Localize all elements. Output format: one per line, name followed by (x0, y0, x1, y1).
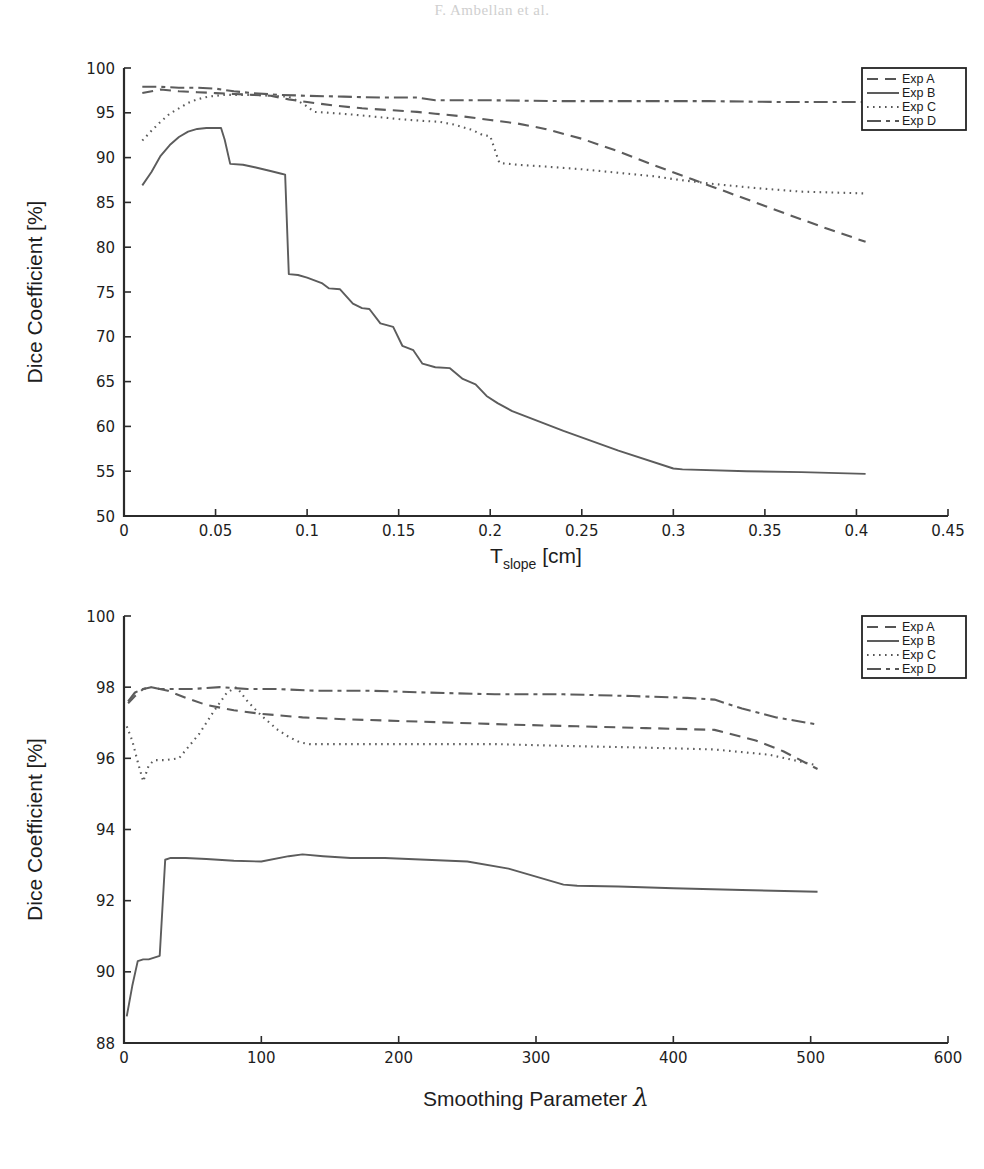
y-tick-label: 95 (96, 104, 115, 122)
legend-label-exp-a: Exp A (902, 620, 935, 634)
y-tick-label: 92 (96, 892, 115, 910)
x-tick-label: 0.15 (382, 522, 415, 540)
chart-dice-vs-tslope: 5055606570758085909510000.050.10.150.20.… (0, 18, 984, 593)
y-tick-label: 65 (96, 373, 115, 391)
y-tick-label: 85 (96, 194, 115, 212)
legend-label-exp-d: Exp D (902, 114, 936, 128)
series-group (127, 687, 818, 1016)
x-tick-label: 0.35 (748, 522, 781, 540)
page-running-header: F. Ambellan et al. (0, 2, 984, 19)
x-axis-title: Tslope [cm] (490, 544, 582, 572)
y-tick-label: 55 (96, 463, 115, 481)
x-tick-label: 200 (384, 1049, 413, 1067)
series-line-exp-c (142, 95, 865, 194)
y-tick-label: 98 (96, 679, 115, 697)
y-tick-label: 80 (96, 239, 115, 257)
x-tick-label: 0.05 (199, 522, 232, 540)
x-axis-title: Smoothing Parameter λ (423, 1083, 649, 1112)
legend-label-exp-b: Exp B (902, 634, 935, 648)
x-tick-label: 0.4 (845, 522, 869, 540)
x-tick-label: 600 (934, 1049, 963, 1067)
x-tick-label: 0.45 (931, 522, 964, 540)
series-line-exp-c (127, 687, 818, 781)
x-tick-label: 0 (119, 522, 129, 540)
x-tick-label: 0.3 (661, 522, 685, 540)
chart-dice-vs-smoothing: 8890929496981000100200300400500600Dice C… (0, 593, 984, 1169)
y-tick-label: 75 (96, 284, 115, 302)
y-tick-label: 70 (96, 328, 115, 346)
legend: Exp AExp BExp CExp D (862, 68, 966, 130)
x-tick-label: 0 (119, 1049, 129, 1067)
series-line-exp-b (142, 128, 865, 474)
y-tick-label: 90 (96, 963, 115, 981)
figure-page: F. Ambellan et al. 505560657075808590951… (0, 0, 984, 1169)
x-tick-label: 400 (659, 1049, 688, 1067)
y-tick-label: 60 (96, 418, 115, 436)
x-tick-label: 0.25 (565, 522, 598, 540)
legend-label-exp-b: Exp B (902, 86, 935, 100)
y-axis-title: Dice Coefficient [%] (23, 738, 46, 921)
axis-spines (124, 68, 948, 516)
x-tick-label: 300 (522, 1049, 551, 1067)
y-tick-label: 94 (96, 821, 115, 839)
y-tick-label: 100 (86, 60, 115, 78)
x-tick-label: 0.2 (478, 522, 502, 540)
y-tick-label: 88 (96, 1035, 115, 1053)
y-axis-title: Dice Coefficient [%] (23, 201, 46, 384)
y-tick-label: 90 (96, 149, 115, 167)
y-tick-label: 96 (96, 750, 115, 768)
legend-label-exp-d: Exp D (902, 662, 936, 676)
y-tick-label: 50 (96, 508, 115, 526)
series-line-exp-b (127, 854, 818, 1016)
x-tick-label: 0.1 (295, 522, 319, 540)
series-line-exp-d (128, 687, 817, 724)
legend: Exp AExp BExp CExp D (862, 616, 966, 678)
axis-spines (124, 616, 948, 1043)
legend-label-exp-c: Exp C (902, 648, 936, 662)
legend-label-exp-a: Exp A (902, 72, 935, 86)
y-tick-label: 100 (86, 608, 115, 626)
x-tick-label: 100 (247, 1049, 276, 1067)
x-tick-label: 500 (796, 1049, 825, 1067)
series-group (142, 87, 865, 474)
legend-label-exp-c: Exp C (902, 100, 936, 114)
